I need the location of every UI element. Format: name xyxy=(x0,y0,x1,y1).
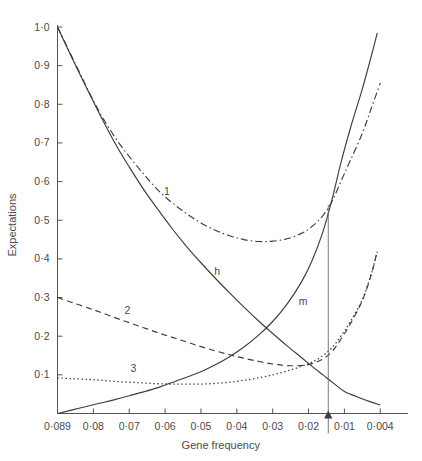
y-tick-label: 0·6 xyxy=(34,175,49,187)
y-tick-label: 0·9 xyxy=(34,59,49,71)
x-tick-label: 0·08 xyxy=(83,420,104,432)
figure-container: 1·00·90·80·70·60·50·40·30·20·1 0·0890·08… xyxy=(0,0,422,461)
curve-m xyxy=(58,33,378,414)
x-tick-label: 0·04 xyxy=(226,420,247,432)
y-tick-label: 0·3 xyxy=(34,291,49,303)
y-tick-label: 0·4 xyxy=(34,252,49,264)
x-tick-label: 0·01 xyxy=(334,420,355,432)
expectations-vs-gene-frequency-chart: 1·00·90·80·70·60·50·40·30·20·1 0·0890·08… xyxy=(0,0,422,461)
chart-annotations xyxy=(324,205,332,434)
y-tick-label: 0·1 xyxy=(34,368,49,380)
data-curves xyxy=(58,27,381,414)
x-tick-label: 0·07 xyxy=(119,420,140,432)
curve-label-3: 3 xyxy=(131,362,137,374)
x-axis-ticks: 0·0890·080·070·060·050·040·030·020·010·0… xyxy=(44,409,394,432)
y-axis-title: Expectations xyxy=(6,193,18,256)
x-tick-label: 0·089 xyxy=(44,420,71,432)
curve-label-1: 1 xyxy=(164,185,170,197)
y-tick-label: 1·0 xyxy=(34,21,49,33)
y-tick-label: 0·7 xyxy=(34,136,49,148)
x-axis-title: Gene frequency xyxy=(182,439,261,451)
x-tick-label: 0·02 xyxy=(298,420,319,432)
x-tick-label: 0·004 xyxy=(367,420,394,432)
curve-label-m: m xyxy=(299,295,308,307)
y-tick-label: 0·5 xyxy=(34,214,49,226)
x-tick-label: 0·03 xyxy=(262,420,283,432)
y-tick-label: 0·8 xyxy=(34,98,49,110)
curve-label-h: h xyxy=(214,265,220,277)
x-tick-label: 0·06 xyxy=(155,420,176,432)
y-axis-ticks: 1·00·90·80·70·60·50·40·30·20·1 xyxy=(34,21,62,381)
curve-1 xyxy=(58,27,381,242)
y-tick-label: 0·2 xyxy=(34,330,49,342)
marker-arrow-icon xyxy=(324,411,332,419)
curve-label-2: 2 xyxy=(125,304,131,316)
x-tick-label: 0·05 xyxy=(190,420,211,432)
curve-h xyxy=(58,27,381,405)
